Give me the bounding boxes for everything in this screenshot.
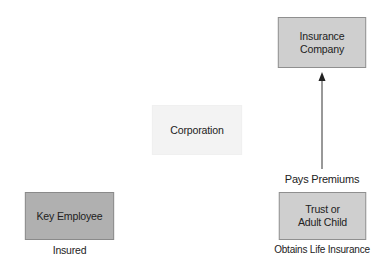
trust-label-line1: Trust or — [298, 203, 347, 216]
insurance-company-label-line1: Insurance — [300, 30, 345, 43]
insurance-company-box: Insurance Company — [278, 17, 366, 68]
trust-label-line2: Adult Child — [298, 216, 347, 229]
key-employee-caption: Insured — [21, 244, 118, 256]
key-employee-box: Key Employee — [25, 192, 114, 240]
corporation-label: Corporation — [170, 124, 223, 137]
trust-caption: Obtains Life Insurance — [262, 244, 382, 256]
arrowhead-icon — [319, 72, 326, 81]
corporation-box: Corporation — [152, 105, 242, 155]
insurance-company-label-line2: Company — [300, 43, 345, 56]
pays-premiums-label: Pays Premiums — [272, 173, 372, 185]
key-employee-label: Key Employee — [36, 210, 102, 223]
trust-or-adult-child-box: Trust or Adult Child — [279, 192, 366, 240]
